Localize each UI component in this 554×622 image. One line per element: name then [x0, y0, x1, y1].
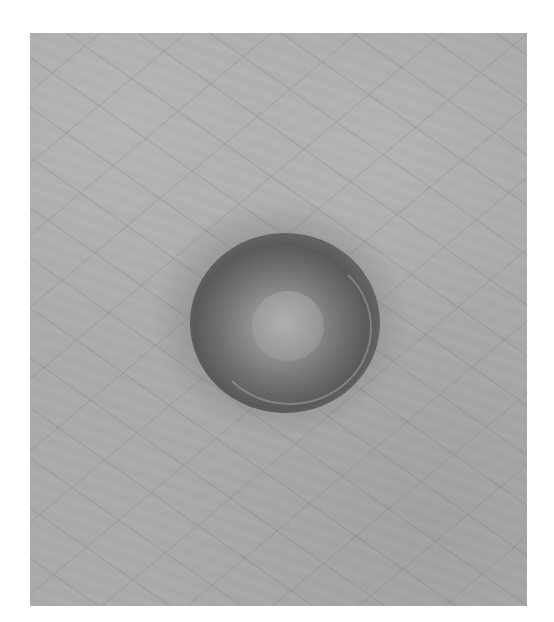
lesion-center	[252, 291, 324, 361]
skin-photograph	[30, 33, 527, 606]
